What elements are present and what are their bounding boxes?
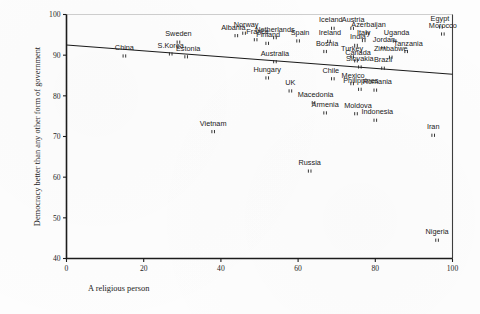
y-tick-label: 50 [53, 214, 61, 223]
y-tick-label: 60 [53, 173, 61, 182]
x-tick-label: 40 [217, 264, 225, 273]
point-label: Chile [323, 66, 340, 75]
x-tick-label: 80 [372, 264, 380, 273]
x-tick-label: 0 [65, 264, 69, 273]
y-tick-label: 90 [53, 51, 61, 60]
x-tick-label: 60 [294, 264, 302, 273]
data-point[interactable]: Armenia [312, 100, 340, 115]
data-point[interactable]: Estonia [176, 44, 201, 59]
x-tick-label: 100 [447, 264, 459, 273]
x-axis-title: A religious person [88, 284, 150, 293]
data-point[interactable]: China [115, 43, 135, 58]
data-point[interactable]: Spain [291, 28, 310, 43]
point-label: Estonia [176, 44, 201, 53]
point-label: Ireland [319, 28, 341, 37]
point-label: Zimbabwe [374, 44, 408, 53]
data-point[interactable]: Indonesia [361, 107, 394, 122]
point-label: Macedonia [298, 90, 335, 99]
y-tick-label: 70 [53, 132, 61, 141]
data-point[interactable]: Romania [363, 77, 393, 92]
point-label: Hungary [253, 65, 281, 74]
data-point[interactable]: Finland [256, 30, 280, 45]
y-tick-label: 40 [53, 254, 61, 263]
point-label: Indonesia [361, 107, 394, 116]
point-label: Brazil [374, 55, 393, 64]
point-label: Sweden [165, 29, 191, 38]
data-point[interactable]: Brazil [374, 55, 393, 70]
data-point[interactable]: Chile [323, 66, 340, 81]
point-label: Iceland [319, 15, 343, 24]
y-axis-title: Democracy better than any other form of … [33, 46, 42, 226]
scatter-plot-figure: 405060708090100020406080100A religious p… [0, 0, 480, 314]
data-point[interactable]: Bosnia [316, 39, 339, 54]
point-label: Slovakia [346, 54, 375, 63]
point-label: Nigeria [425, 227, 449, 236]
point-label: China [115, 43, 135, 52]
x-tick-label: 20 [140, 264, 148, 273]
point-label: India [350, 32, 367, 41]
plot-canvas: 405060708090100020406080100A religious p… [0, 0, 480, 314]
point-label: Iran [427, 122, 440, 131]
point-label: Armenia [312, 100, 340, 109]
point-label: Australia [261, 49, 290, 58]
point-label: Vietnam [200, 119, 227, 128]
point-label: Finland [256, 30, 280, 39]
y-tick-label: 80 [53, 92, 61, 101]
point-label: Romania [363, 77, 393, 86]
data-point[interactable]: Iran [427, 122, 440, 137]
point-label: Spain [291, 28, 310, 37]
data-point[interactable]: Russia [299, 158, 322, 173]
data-point[interactable]: Nigeria [425, 227, 449, 242]
point-label: Russia [299, 158, 322, 167]
point-label: Morocco [429, 21, 457, 30]
point-label: UK [285, 78, 295, 87]
data-point[interactable]: UK [285, 78, 295, 93]
data-point[interactable]: Vietnam [200, 119, 227, 134]
data-point[interactable]: Hungary [253, 65, 281, 80]
y-tick-label: 100 [49, 10, 61, 19]
point-label: Bosnia [316, 39, 339, 48]
point-label: Jordan [373, 35, 395, 44]
